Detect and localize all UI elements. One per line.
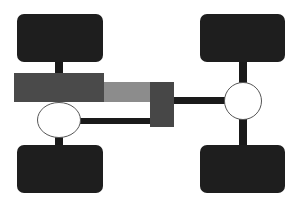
- right-axle-upper: [239, 60, 247, 85]
- right-axle-lower: [239, 117, 247, 147]
- wheel-front-right: [200, 14, 285, 62]
- wheel-front-left: [17, 14, 103, 62]
- wheel-rear-left: [17, 145, 103, 193]
- driveshaft-right: [172, 97, 228, 104]
- transfer-case-block: [150, 82, 174, 127]
- driveshaft-left: [78, 118, 152, 124]
- differential-right: [225, 83, 262, 120]
- drivetrain-svg: [0, 0, 303, 203]
- engine-block: [14, 73, 104, 102]
- wheel-rear-right: [200, 145, 285, 193]
- transmission-block: [104, 82, 150, 102]
- differential-left: [38, 103, 81, 138]
- drivetrain-diagram: [0, 0, 303, 203]
